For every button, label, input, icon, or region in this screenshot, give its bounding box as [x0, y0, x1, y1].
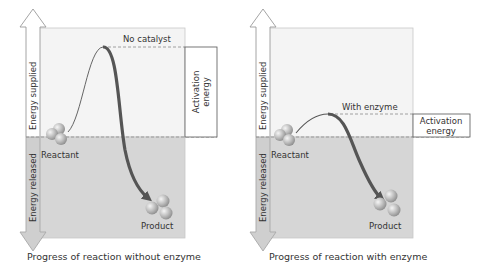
peak-label: No catalyst	[123, 34, 172, 44]
panel-with-enzyme: Energy supplied Energy released With enz…	[250, 9, 470, 251]
activation-energy-label: Activation	[191, 71, 201, 114]
axis-label-energy-supplied: Energy supplied	[28, 62, 38, 130]
activation-energy-label: Activation	[420, 116, 463, 126]
panel-without-enzyme: Energy supplied Energy released No catal…	[20, 9, 217, 251]
peak-label: With enzyme	[342, 102, 398, 112]
product-label: Product	[141, 221, 174, 231]
energy-supplied-region	[39, 28, 185, 137]
axis-label-energy-released: Energy released	[258, 153, 268, 222]
product-label: Product	[369, 221, 402, 231]
activation-energy-label-2: energy	[201, 77, 211, 107]
activation-energy-label-2: energy	[426, 126, 456, 136]
axis-label-energy-released: Energy released	[28, 153, 38, 222]
reactant-label: Reactant	[41, 150, 80, 160]
caption-without-enzyme: Progress of reaction without enzyme	[27, 251, 201, 262]
axis-label-energy-supplied: Energy supplied	[258, 62, 268, 130]
reactant-label: Reactant	[271, 150, 310, 160]
enzyme-activation-energy-diagram: Energy supplied Energy released No catal…	[0, 0, 495, 272]
caption-with-enzyme: Progress of reaction with enzyme	[269, 251, 427, 262]
